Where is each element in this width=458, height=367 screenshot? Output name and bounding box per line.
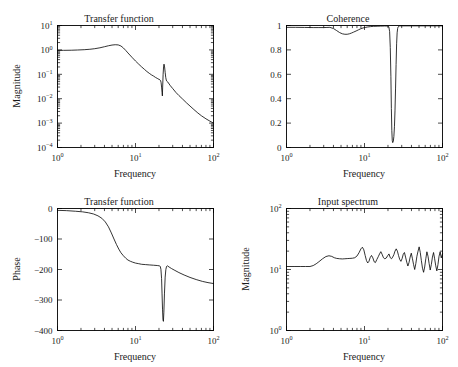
tick-label: 0.4	[270, 94, 282, 104]
tick-label: 10−4	[37, 141, 53, 153]
y-tick-labels: 10110010−110−210−310−4	[37, 19, 53, 153]
tick-label: 10−1	[37, 68, 53, 80]
tick-label: 0	[48, 204, 53, 214]
axes-frame	[287, 209, 443, 331]
tick-label: 100	[269, 324, 281, 336]
plot-area-input-spectrum	[287, 209, 443, 331]
axes-frame	[58, 209, 214, 331]
tick-label: 100	[280, 151, 292, 163]
plot-area-coherence	[287, 26, 443, 148]
x-axis-label: Frequency	[343, 351, 385, 362]
x-tick-labels: 100101102	[280, 151, 448, 163]
tick-label: 100	[40, 44, 52, 56]
plot-area-magnitude	[58, 26, 214, 148]
tick-label: 100	[280, 334, 292, 346]
tick-marks	[287, 209, 443, 331]
plot-svg-magnitude: Transfer function 10110010−110−210−310−4…	[0, 0, 229, 183]
subplot-coherence: Coherence 00.20.40.60.81 100101102 Frequ…	[229, 0, 458, 183]
plot-svg-input-spectrum: Input spectrum 102101100 100101102 Magni…	[229, 183, 458, 366]
plot-svg-phase: Transfer function 0−100−200−300−400 1001…	[0, 183, 229, 366]
tick-label: 101	[358, 334, 370, 346]
subplot-input-spectrum: Input spectrum 102101100 100101102 Magni…	[229, 183, 458, 366]
tick-label: 101	[358, 151, 370, 163]
tick-label: 0.6	[270, 70, 282, 80]
axes-frame	[287, 26, 443, 148]
tick-label: 0.8	[270, 45, 282, 55]
tick-label: 0	[277, 143, 282, 153]
data-series-line	[287, 26, 443, 143]
y-axis-label: Phase	[11, 257, 22, 281]
tick-marks	[287, 26, 443, 148]
figure-canvas: Transfer function 10110010−110−210−310−4…	[0, 0, 458, 367]
tick-label: 101	[129, 334, 141, 346]
subplot-title: Coherence	[327, 13, 370, 24]
axes-frame	[58, 26, 214, 148]
subplot-transfer-function-magnitude: Transfer function 10110010−110−210−310−4…	[0, 0, 229, 183]
y-tick-labels: 0−100−200−300−400	[34, 204, 53, 336]
tick-label: 102	[436, 151, 448, 163]
tick-label: −200	[34, 265, 53, 275]
data-series-line	[58, 210, 214, 321]
tick-label: −300	[34, 295, 53, 305]
tick-label: 10−3	[37, 117, 53, 129]
subplot-title: Transfer function	[84, 196, 153, 207]
x-axis-label: Frequency	[114, 351, 156, 362]
tick-label: 101	[40, 19, 52, 31]
tick-label: −100	[34, 234, 53, 244]
tick-label: 102	[207, 151, 219, 163]
tick-label: 102	[436, 334, 448, 346]
plot-area-phase	[58, 209, 214, 331]
data-series-line	[287, 247, 443, 272]
tick-label: 102	[269, 202, 281, 214]
y-axis-label: Magnitude	[11, 64, 22, 108]
subplot-transfer-function-phase: Transfer function 0−100−200−300−400 1001…	[0, 183, 229, 366]
tick-label: 102	[207, 334, 219, 346]
subplot-title: Input spectrum	[318, 196, 378, 207]
tick-label: 101	[269, 263, 281, 275]
tick-marks	[58, 209, 214, 331]
tick-marks	[58, 26, 214, 148]
tick-label: 1	[277, 21, 282, 31]
tick-label: −400	[34, 326, 53, 336]
tick-label: 0.2	[270, 118, 281, 128]
tick-label: 10−2	[37, 92, 53, 104]
tick-label: 101	[129, 151, 141, 163]
x-axis-label: Frequency	[114, 168, 156, 179]
x-axis-label: Frequency	[343, 168, 385, 179]
x-tick-labels: 100101102	[280, 334, 448, 346]
data-series-line	[58, 45, 214, 123]
tick-label: 100	[51, 334, 63, 346]
x-tick-labels: 100101102	[51, 151, 219, 163]
x-tick-labels: 100101102	[51, 334, 219, 346]
y-tick-labels: 00.20.40.60.81	[270, 21, 282, 153]
subplot-title: Transfer function	[84, 13, 153, 24]
y-tick-labels: 102101100	[269, 202, 281, 336]
plot-svg-coherence: Coherence 00.20.40.60.81 100101102 Frequ…	[229, 0, 458, 183]
tick-label: 100	[51, 151, 63, 163]
y-axis-label: Magnitude	[240, 247, 251, 291]
